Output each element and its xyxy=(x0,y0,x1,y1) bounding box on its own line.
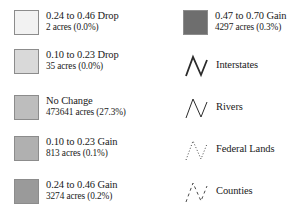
map-legend: 0.24 to 0.46 Drop 2 acres (0.0%) 0.10 to… xyxy=(0,0,305,220)
legend-item-label: 0.10 to 0.23 Gain xyxy=(46,136,118,148)
rivers-line-icon xyxy=(184,96,210,121)
legend-item-rivers[interactable]: Rivers xyxy=(184,96,243,121)
color-swatch-gain-024-046 xyxy=(14,179,39,204)
legend-item-text: 0.10 to 0.23 Gain 813 acres (0.1%) xyxy=(46,136,118,158)
color-swatch-drop-024-046 xyxy=(14,10,39,35)
legend-item-label: Interstates xyxy=(216,59,258,71)
federal-lands-line-icon xyxy=(184,138,210,163)
legend-item-text: Federal Lands xyxy=(216,138,274,155)
legend-item-gain-024-046[interactable]: 0.24 to 0.46 Gain 3274 acres (0.2%) xyxy=(14,179,118,204)
legend-item-drop-024-046[interactable]: 0.24 to 0.46 Drop 2 acres (0.0%) xyxy=(14,10,119,35)
legend-item-no-change[interactable]: No Change 473641 acres (27.3%) xyxy=(14,95,126,120)
legend-item-label: 0.24 to 0.46 Drop xyxy=(46,10,119,22)
legend-item-label: Federal Lands xyxy=(216,143,274,155)
legend-item-federal-lands[interactable]: Federal Lands xyxy=(184,138,274,163)
color-swatch-drop-010-023 xyxy=(14,49,39,74)
legend-item-label: 0.10 to 0.23 Drop xyxy=(46,49,119,61)
legend-item-gain-047-070[interactable]: 0.47 to 0.70 Gain 4297 acres (0.3%) xyxy=(183,10,287,35)
legend-item-label: Counties xyxy=(216,185,253,197)
legend-item-label: 0.24 to 0.46 Gain xyxy=(46,179,118,191)
legend-item-counties[interactable]: Counties xyxy=(184,180,253,205)
legend-item-stats: 35 acres (0.0%) xyxy=(46,61,119,71)
legend-item-text: 0.47 to 0.70 Gain 4297 acres (0.3%) xyxy=(215,10,287,32)
legend-item-text: Counties xyxy=(216,180,253,197)
legend-item-label: Rivers xyxy=(216,101,243,113)
legend-item-text: 0.24 to 0.46 Drop 2 acres (0.0%) xyxy=(46,10,119,32)
counties-line-icon xyxy=(184,180,210,205)
legend-item-gain-010-023[interactable]: 0.10 to 0.23 Gain 813 acres (0.1%) xyxy=(14,136,118,161)
color-swatch-no-change xyxy=(14,95,39,120)
interstates-line-icon xyxy=(184,54,210,79)
legend-item-text: Interstates xyxy=(216,54,258,71)
legend-item-text: Rivers xyxy=(216,96,243,113)
legend-item-text: 0.24 to 0.46 Gain 3274 acres (0.2%) xyxy=(46,179,118,201)
legend-item-label: 0.47 to 0.70 Gain xyxy=(215,10,287,22)
color-swatch-gain-010-023 xyxy=(14,136,39,161)
legend-item-text: No Change 473641 acres (27.3%) xyxy=(46,95,126,117)
legend-item-label: No Change xyxy=(46,95,126,107)
legend-item-drop-010-023[interactable]: 0.10 to 0.23 Drop 35 acres (0.0%) xyxy=(14,49,119,74)
legend-item-stats: 3274 acres (0.2%) xyxy=(46,191,118,201)
legend-item-stats: 473641 acres (27.3%) xyxy=(46,107,126,117)
color-swatch-gain-047-070 xyxy=(183,10,208,35)
legend-item-text: 0.10 to 0.23 Drop 35 acres (0.0%) xyxy=(46,49,119,71)
legend-item-stats: 4297 acres (0.3%) xyxy=(215,22,287,32)
legend-item-stats: 2 acres (0.0%) xyxy=(46,22,119,32)
legend-item-interstates[interactable]: Interstates xyxy=(184,54,258,79)
legend-item-stats: 813 acres (0.1%) xyxy=(46,148,118,158)
